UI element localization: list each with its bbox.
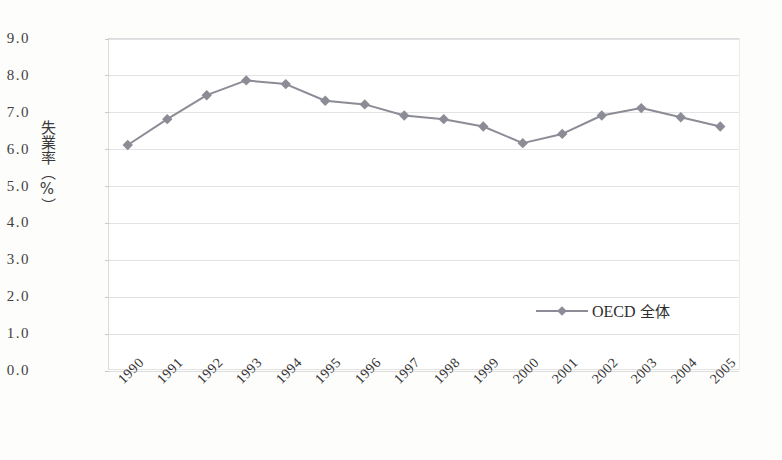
chart-legend: OECD 全体 <box>534 300 670 321</box>
y-tick-label: 7.0 <box>0 103 30 120</box>
gridline <box>109 75 739 76</box>
y-tick-mark <box>105 149 109 150</box>
gridline <box>109 260 739 261</box>
legend-marker-icon <box>534 304 590 318</box>
y-axis-title: 失業率（%） <box>30 120 56 213</box>
gridline <box>109 186 739 187</box>
y-tick-label: 4.0 <box>0 214 30 231</box>
y-tick-mark <box>105 75 109 76</box>
gridline <box>109 149 739 150</box>
y-tick-label: 5.0 <box>0 177 30 194</box>
y-tick-label: 1.0 <box>0 325 30 342</box>
gridline <box>109 334 739 335</box>
y-tick-label: 6.0 <box>0 140 30 157</box>
legend-label: OECD 全体 <box>590 300 670 321</box>
y-tick-label: 3.0 <box>0 251 30 268</box>
y-tick-mark <box>105 223 109 224</box>
chart-figure: 失業率（%） 9.08.07.06.05.04.03.02.01.00.0 19… <box>0 0 782 460</box>
y-tick-mark <box>105 334 109 335</box>
gridline <box>109 223 739 224</box>
y-tick-mark <box>105 371 109 372</box>
gridline <box>109 297 739 298</box>
y-tick-mark <box>105 260 109 261</box>
y-tick-label: 0.0 <box>0 362 30 379</box>
y-tick-mark <box>105 297 109 298</box>
y-tick-label: 8.0 <box>0 66 30 83</box>
gridline <box>109 112 739 113</box>
y-tick-mark <box>105 39 109 40</box>
y-tick-label: 9.0 <box>0 30 30 47</box>
y-tick-mark <box>105 186 109 187</box>
y-tick-label: 2.0 <box>0 288 30 305</box>
gridline <box>109 39 739 40</box>
y-tick-mark <box>105 112 109 113</box>
